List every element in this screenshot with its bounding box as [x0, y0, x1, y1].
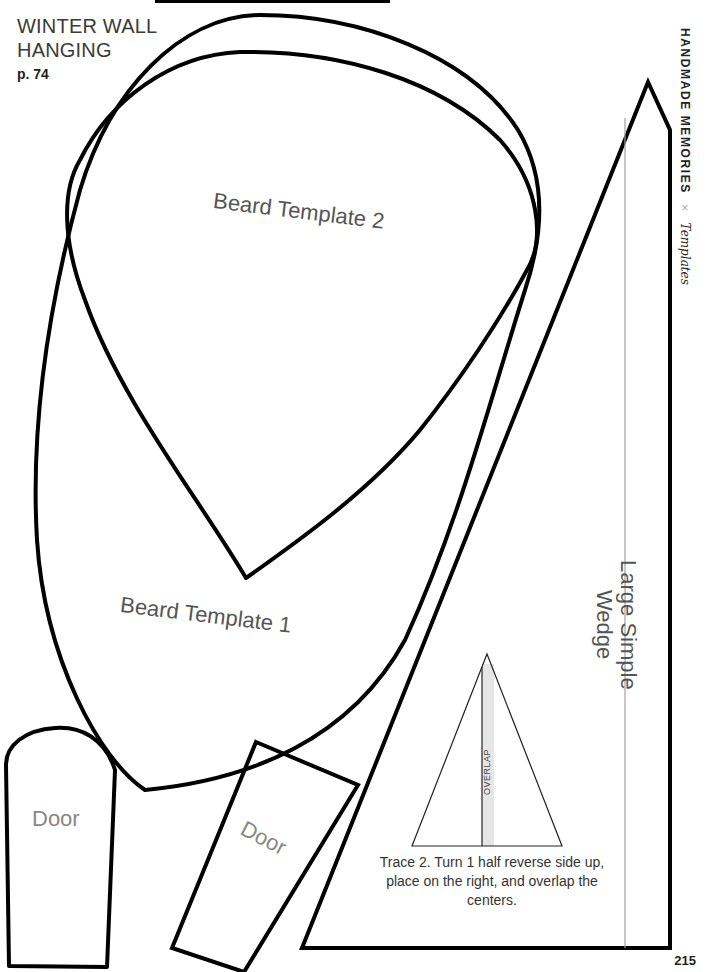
running-head-brand: HANDMADE MEMORIES — [678, 28, 692, 194]
template-outlines — [0, 0, 708, 972]
running-head-section: Templates — [678, 223, 692, 285]
page-number: 215 — [674, 953, 696, 968]
running-head: HANDMADE MEMORIES × Templates — [678, 28, 692, 285]
top-edge-bar — [155, 0, 390, 3]
project-page-reference: p. 74 — [17, 66, 49, 82]
project-title: WINTER WALL HANGING — [17, 14, 157, 62]
beard-template-2-outline — [67, 52, 537, 578]
template-page: WINTER WALL HANGING p. 74 HANDMADE MEMOR… — [0, 0, 708, 972]
running-head-separator: × — [678, 201, 692, 215]
wedge-label: Large Simple Wedge — [592, 560, 640, 690]
door-1-outline — [6, 728, 115, 967]
overlap-label: OVERLAP — [482, 749, 492, 795]
door-1-label: Door — [32, 806, 80, 832]
wedge-label-line-1: Large Simple — [616, 560, 641, 690]
beard-template-1-outline — [36, 15, 540, 790]
wedge-label-line-2: Wedge — [592, 590, 617, 659]
project-title-line-1: WINTER WALL — [17, 14, 157, 38]
project-title-line-2: HANGING — [17, 38, 157, 62]
wedge-instructions: Trace 2. Turn 1 half reverse side up, pl… — [362, 853, 622, 910]
door-2-outline — [172, 742, 358, 972]
